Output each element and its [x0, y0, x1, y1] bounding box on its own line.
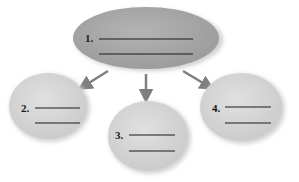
- node-4: 4.: [200, 73, 285, 144]
- arrow-1-to-2: [84, 71, 108, 86]
- node-label: 3.: [115, 129, 124, 141]
- arrow-1-to-4: [183, 71, 208, 86]
- node-label: 4.: [212, 102, 221, 114]
- main-oval: [73, 7, 219, 69]
- node-3: 3.: [108, 101, 191, 174]
- node-label: 2.: [21, 102, 30, 114]
- concept-map-diagram: 1. 2. 3. 4.: [0, 0, 299, 182]
- node-label: 1.: [85, 32, 94, 44]
- edges: [84, 71, 208, 96]
- node-2: 2.: [9, 73, 90, 142]
- node-1-main: 1.: [73, 7, 223, 71]
